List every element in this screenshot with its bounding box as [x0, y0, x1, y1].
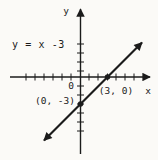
coordinate-plane-svg: y = x -3 y x 0 (3, 0) (0, -3)	[0, 0, 158, 160]
y-intercept-point	[78, 101, 83, 106]
x-intercept-point	[105, 74, 110, 79]
x-intercept-label: (3, 0)	[99, 85, 133, 96]
y-axis-label: y	[63, 5, 69, 16]
equation-label: y = x -3	[12, 39, 65, 50]
y-intercept-label: (0, -3)	[35, 95, 75, 106]
x-axis-label: x	[145, 85, 151, 96]
origin-label: 0	[68, 80, 74, 91]
graph-figure: y = x -3 y x 0 (3, 0) (0, -3)	[0, 0, 158, 160]
